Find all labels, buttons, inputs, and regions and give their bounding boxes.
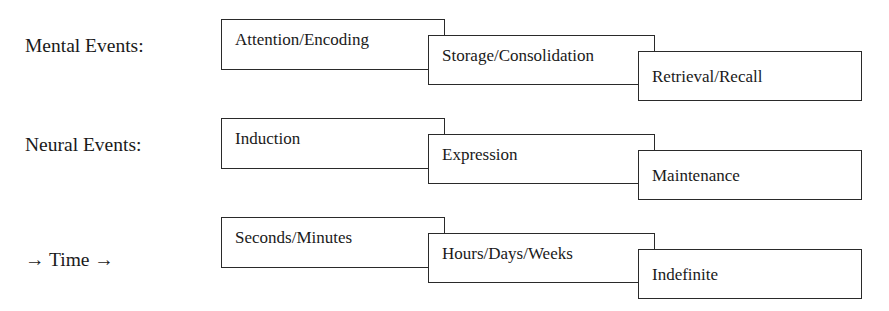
stage-box-hours-days-weeks: Hours/Days/Weeks [428,233,655,283]
stage-box-seconds-minutes: Seconds/Minutes [221,217,445,268]
stage-box-indefinite: Indefinite [638,249,862,299]
stage-box-label: Storage/Consolidation [442,46,594,66]
stage-box-induction: Induction [221,118,445,169]
row-label-mental-events: Mental Events: [25,35,144,57]
stage-box-label: Attention/Encoding [235,30,369,50]
stage-box-label: Maintenance [652,166,740,186]
stage-box-expression: Expression [428,134,655,184]
stage-box-attention-encoding: Attention/Encoding [221,19,445,70]
stage-box-label: Indefinite [652,265,718,285]
stage-box-label: Seconds/Minutes [235,228,352,248]
memory-stages-diagram: Mental Events: Attention/Encoding Storag… [0,0,889,311]
stage-box-label: Hours/Days/Weeks [442,244,573,264]
row-label-neural-events: Neural Events: [25,134,141,156]
stage-box-storage-consolidation: Storage/Consolidation [428,35,655,85]
stage-box-label: Induction [235,129,300,149]
stage-box-label: Expression [442,145,518,165]
stage-box-retrieval-recall: Retrieval/Recall [638,51,862,101]
stage-box-maintenance: Maintenance [638,150,862,200]
stage-box-label: Retrieval/Recall [652,67,762,87]
row-label-time: → Time → [25,249,114,271]
